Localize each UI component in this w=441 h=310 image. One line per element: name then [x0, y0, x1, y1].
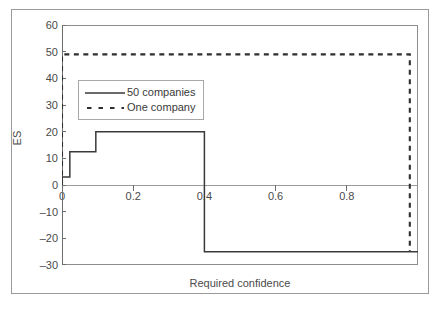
y-axis-title: ES [11, 130, 23, 145]
y-tick-label: 60 [28, 20, 58, 31]
legend-dashed-line-icon [84, 102, 126, 114]
x-axis-title: Required confidence [62, 277, 418, 289]
plot-area [62, 25, 418, 265]
y-tick-label: –20 [28, 233, 58, 244]
y-axis-tick-labels: 60 50 40 30 20 10 0 –10 –20 –30 [26, 25, 58, 265]
y-tick-label: 50 [28, 46, 58, 57]
y-tick-label: –30 [28, 260, 58, 271]
y-tick-label: 0 [28, 180, 58, 191]
y-tick-label: 30 [28, 100, 58, 111]
legend-solid-line-icon [84, 87, 126, 99]
legend-item-one-company: One company [84, 100, 196, 115]
y-tick-label: 40 [28, 73, 58, 84]
plot-canvas [62, 25, 418, 265]
chart-legend: 50 companies One company [78, 80, 204, 120]
chart-figure: 60 50 40 30 20 10 0 –10 –20 –30 0 0.2 0.… [0, 0, 441, 310]
y-tick-label: 20 [28, 126, 58, 137]
y-tick-label: 10 [28, 153, 58, 164]
legend-label: One company [127, 102, 195, 113]
legend-item-50-companies: 50 companies [84, 85, 196, 100]
y-tick-label: –10 [28, 206, 58, 217]
series-line-50-companies [62, 132, 418, 252]
legend-label: 50 companies [127, 87, 196, 98]
